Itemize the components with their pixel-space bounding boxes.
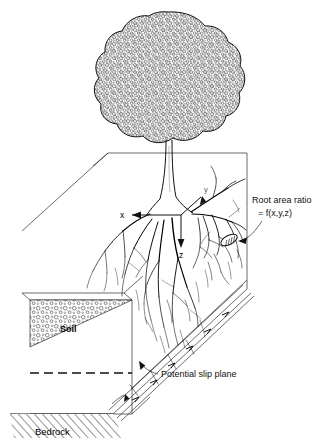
root-area-ratio-line2: = f(x,y,z)	[258, 208, 292, 218]
soil-label: Soil	[60, 324, 77, 334]
figure-root: Soil Bedrock	[0, 0, 332, 445]
root-area-ratio-line1: Root area ratio	[252, 195, 312, 205]
potential-slip-plane-label: Potential slip plane	[161, 369, 237, 379]
bedrock-group: Bedrock	[8, 412, 128, 442]
z-axis-label: z	[179, 250, 183, 260]
y-axis-label: y	[204, 185, 208, 194]
bedrock-label: Bedrock	[35, 426, 70, 437]
root-reinforcement-diagram: Soil Bedrock	[0, 0, 332, 445]
